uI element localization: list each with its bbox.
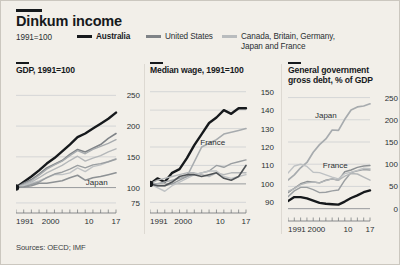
y-tick-label: 150 <box>261 88 275 97</box>
x-tick-label: 17 <box>112 217 121 226</box>
legend-swatch-other-countries <box>222 35 237 38</box>
legend-other-countries: Canada, Britain, Germany, Japan and Fran… <box>222 32 335 51</box>
y-tick-label: 200 <box>127 122 141 131</box>
legend-united-states: United States <box>146 32 213 41</box>
y-tick-label: 120 <box>261 143 275 152</box>
sources-note: Sources: OECD; IMF <box>16 243 86 252</box>
panel-title-government-debt: General government gross debt, % of GDP <box>288 66 398 85</box>
x-tick-label: 17 <box>242 217 251 226</box>
y-tick-label: 0 <box>394 205 399 214</box>
panel-median-wage: Median wage, 1991=100 901001101201301401… <box>150 62 274 76</box>
x-tick-label: 10 <box>216 217 225 226</box>
y-tick-label: 130 <box>261 125 275 134</box>
panel-divider-2 <box>281 64 282 234</box>
series-annotation: Japan <box>86 178 108 187</box>
legend-label-australia: Australia <box>96 32 130 41</box>
plot-area-median-wage: 90100110120130140150France199120001017 <box>150 88 276 226</box>
index-note: 1991=100 <box>16 33 52 42</box>
series-annotation: France <box>323 161 348 170</box>
legend-label-other-countries-line2: Japan and France <box>241 42 335 51</box>
x-tick-label: 2000 <box>42 217 60 226</box>
legend-label-other-countries: Canada, Britain, Germany, <box>241 32 335 41</box>
panel-title-gdp: GDP, 1991=100 <box>16 66 140 76</box>
panel-title-line2: gross debt, % of GDP <box>288 75 373 85</box>
panel-rule <box>16 62 29 64</box>
plot-area-government-debt: 050100150200250JapanFrance199120001017 <box>288 88 400 234</box>
y-tick-label: 140 <box>261 106 275 115</box>
panel-government-debt: General government gross debt, % of GDP … <box>288 62 398 85</box>
y-tick-label: 100 <box>385 160 399 169</box>
legend-australia: Australia <box>77 32 130 41</box>
x-tick-label: 2000 <box>307 225 325 234</box>
y-tick-label: 75 <box>131 199 140 208</box>
y-tick-label: 200 <box>385 116 399 125</box>
legend-swatch-united-states <box>146 35 161 38</box>
panel-title-median-wage: Median wage, 1991=100 <box>150 66 274 76</box>
legend-label-united-states: United States <box>165 32 213 41</box>
x-tick-label: 1991 <box>16 217 34 226</box>
y-tick-label: 150 <box>385 138 399 147</box>
x-tick-label: 10 <box>343 225 352 234</box>
x-tick-label: 10 <box>85 217 94 226</box>
y-tick-label: 150 <box>127 153 141 162</box>
y-tick-label: 250 <box>127 91 141 100</box>
legend-swatch-australia <box>77 35 92 38</box>
y-tick-label: 50 <box>389 182 398 191</box>
y-tick-label: 100 <box>127 184 141 193</box>
panel-rule <box>288 62 301 64</box>
y-tick-label: 110 <box>261 161 274 170</box>
series-annotation: France <box>200 138 225 147</box>
series-annotation: Japan <box>315 111 337 120</box>
x-tick-label: 17 <box>366 225 375 234</box>
x-tick-label: 2000 <box>174 217 192 226</box>
y-tick-label: 90 <box>265 198 274 207</box>
plot-area-gdp: 75100150200250Japan199120001017 <box>16 88 142 226</box>
x-tick-label: 1991 <box>150 217 168 226</box>
title-rule <box>16 9 42 12</box>
panel-title-line1: General government <box>288 65 369 75</box>
y-tick-label: 100 <box>261 180 275 189</box>
panel-gdp: GDP, 1991=100 75100150200250Japan1991200… <box>16 62 140 76</box>
y-tick-label: 250 <box>385 94 399 103</box>
series-line <box>288 190 370 204</box>
page-title: Dinkum income <box>16 13 122 29</box>
panel-rule <box>150 62 163 64</box>
panel-divider-1 <box>144 64 145 234</box>
x-tick-label: 1991 <box>288 225 306 234</box>
